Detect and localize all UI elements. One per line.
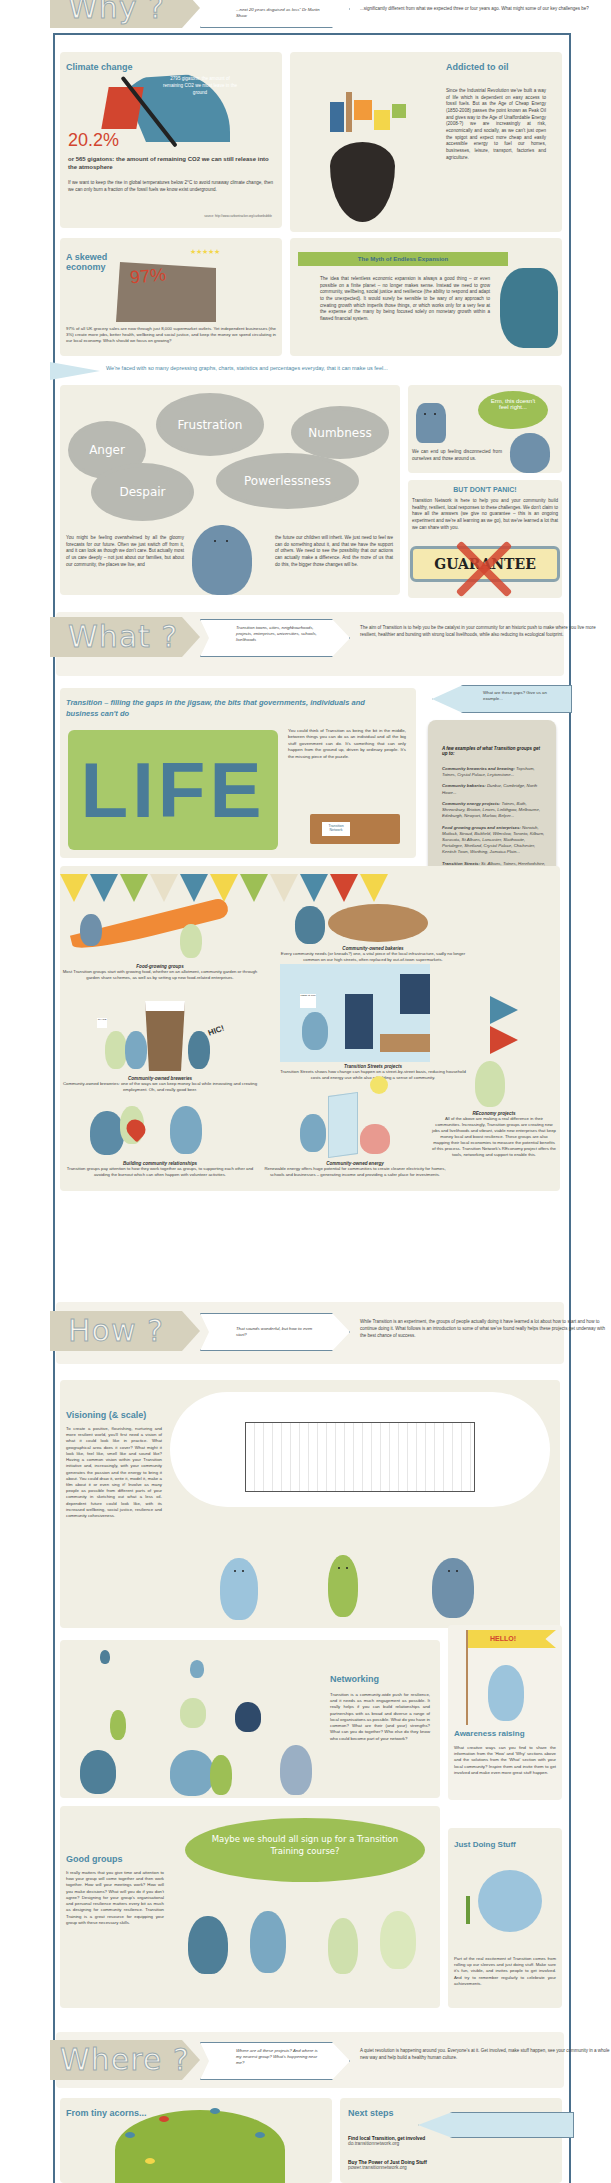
creature-icon [170, 1750, 214, 1796]
creature-icon [110, 1710, 126, 1740]
creature-icon [235, 1702, 261, 1732]
creature-icon [188, 1031, 210, 1069]
dont-panic-body: Transition Network is here to help you a… [412, 498, 558, 531]
examples-intro: A few examples of what Transition groups… [442, 746, 542, 756]
next-step-item[interactable]: Find local Transition, get involved do.t… [348, 2136, 425, 2146]
where-tag: Where ? [50, 2040, 200, 2080]
life-jigsaw-image: LIFE [68, 730, 278, 850]
share-sign: SHARE [97, 1018, 107, 1028]
creature-icon [188, 1916, 228, 1974]
sunbathing-creature-icon [360, 1124, 390, 1154]
just-doing-stuff-panel: Just Doing Stuff Part of the real excite… [448, 1828, 562, 2008]
unicorn-icon [500, 268, 558, 348]
cross-icon [438, 538, 528, 598]
seedling-icon [466, 1896, 470, 1924]
next-step-item[interactable]: Buy The Power of Just Doing Stuff power.… [348, 2160, 427, 2170]
creature-icon [475, 1061, 505, 1107]
creature-icon [90, 1111, 124, 1155]
creature-icon [328, 1918, 358, 1974]
bunting-flag [490, 1026, 518, 1054]
bunting-flag [210, 874, 238, 902]
stars-icon: ★★★★★ [190, 248, 220, 256]
creature-icon [80, 914, 102, 946]
bird-icon [210, 2108, 220, 2114]
solar-panel-icon [328, 1092, 358, 1158]
training-speech-bubble: Maybe we should all sign up for a Transi… [185, 1818, 425, 1882]
disconnected-text: We can end up feeling disconnected from … [412, 449, 502, 462]
creature-icon [280, 1745, 312, 1795]
creature-icon [510, 433, 550, 473]
creature-icon [210, 1755, 232, 1795]
example-item: Community breweries and brewing: Topsham… [442, 766, 546, 778]
creature-icon [328, 1555, 358, 1617]
feeling-cloud-numbness: Numbness [295, 410, 385, 455]
good-groups-title: Good groups [66, 1854, 123, 1864]
bunting-flag [360, 874, 388, 902]
what-lead: The aim of Transition is to help you be … [360, 625, 610, 639]
sad-creature-icon [192, 525, 252, 595]
visioning-title: Visioning (& scale) [66, 1410, 146, 1420]
creature-icon [170, 1106, 202, 1154]
projects-panel: Food-growing groups Most Transition grou… [60, 866, 560, 1191]
overwhelmed-text-right: the future our children will inherit. We… [275, 535, 393, 568]
what-tag: What ? [50, 617, 200, 657]
hic-text: HIC! [207, 1023, 226, 1037]
next-steps-title: Next steps [348, 2108, 394, 2118]
feeling-cloud-powerlessness: Powerlessness [220, 457, 355, 505]
how-bubble: That sounds wonderful, but how to even s… [200, 1313, 350, 1351]
networking-body: Transition is a community-wide push for … [330, 1692, 430, 1742]
gauge-text: 2795 gigatons: the amount of remaining C… [160, 76, 240, 97]
just-doing-title: Just Doing Stuff [454, 1840, 516, 1849]
creature-icon [80, 1750, 116, 1794]
gardening-creature-icon [478, 1870, 542, 1932]
streets-illustration: MEET at 7pm [280, 964, 430, 1062]
bunting-flag [270, 874, 298, 902]
puzzle-box-icon: Transition Network [310, 814, 400, 844]
flag-pole [466, 1630, 468, 1725]
project-food-growing: Food-growing groups Most Transition grou… [60, 964, 260, 981]
bunting-flag [90, 874, 118, 902]
where-bubble: Where are all these projects? And where … [200, 2042, 350, 2080]
angry-creature-icon [250, 1911, 286, 1973]
hello-flag: HELLO! [468, 1630, 556, 1648]
how-lead: While Transition is an experiment, the g… [360, 1319, 610, 1339]
next-steps-panel: Next steps Find local Transition, get in… [340, 2098, 562, 2183]
bunting-flag [330, 874, 358, 902]
city-icon [330, 92, 410, 137]
feelings-panel: Anger Frustration Numbness Despair Power… [60, 385, 400, 595]
project-bakeries: Community-owned bakeries Every community… [278, 946, 468, 963]
just-doing-body: Part of the real excitement of Transitio… [454, 1956, 556, 1987]
jigsaw-title: Transition – filling the gaps in the jig… [66, 698, 386, 719]
bird-icon [159, 2116, 169, 2122]
how-tag: How ? [50, 1311, 200, 1351]
networking-panel: Networking Transition is a community-wid… [60, 1640, 440, 1798]
why-lead: ...significantly different from what we … [360, 6, 610, 13]
disconnected-panel: Erm, this doesn't feel right... We can e… [408, 385, 562, 473]
climate-title: Climate change [66, 62, 133, 72]
project-reconomy: REconomy projects All of the above are m… [432, 1111, 556, 1158]
myth-body: The idea that relentless economic expans… [320, 276, 490, 323]
acorns-title: From tiny acorns... [66, 2108, 147, 2118]
why-quote-bubble: ...next 20 years disguised as loss" Dr M… [200, 0, 350, 28]
project-breweries: Community-owned breweries Community-owne… [60, 1076, 260, 1093]
example-item: Food growing groups and enterprises: Nor… [442, 825, 546, 856]
climate-change-panel: Climate change 2795 gigatons: the amount… [60, 52, 282, 228]
creature-icon [190, 1660, 204, 1678]
good-groups-panel: Good groups It really matters that you g… [60, 1806, 440, 2008]
economy-body: 97% of all UK grocery sales are now thro… [66, 326, 276, 345]
creature-icon [380, 1911, 416, 1969]
acorns-panel: From tiny acorns... [60, 2098, 332, 2183]
overwhelmed-text-left: You might be feeling overwhelmed by all … [66, 535, 184, 568]
awareness-panel: HELLO! Awareness raising What creative w… [448, 1625, 562, 1800]
oil-body: Since the Industrial Revolution we've bu… [446, 88, 546, 161]
economy-panel: A skewed economy 97% ★★★★★ 97% of all UK… [60, 238, 282, 356]
what-bubble: Transition towns, cities, neighbourhoods… [200, 619, 350, 657]
project-energy: Community-owned energy Renewable energy … [260, 1161, 450, 1178]
creature-icon [100, 1650, 110, 1664]
example-item: Community bakeries: Dunbar, Cambridge, N… [442, 783, 546, 795]
example-item: Community energy projects: Totnes, Bath,… [442, 801, 546, 820]
feeling-cloud-frustration: Frustration [160, 397, 260, 452]
creature-icon [125, 1031, 147, 1069]
bird-icon [145, 2158, 155, 2164]
creature-icon [180, 924, 202, 958]
